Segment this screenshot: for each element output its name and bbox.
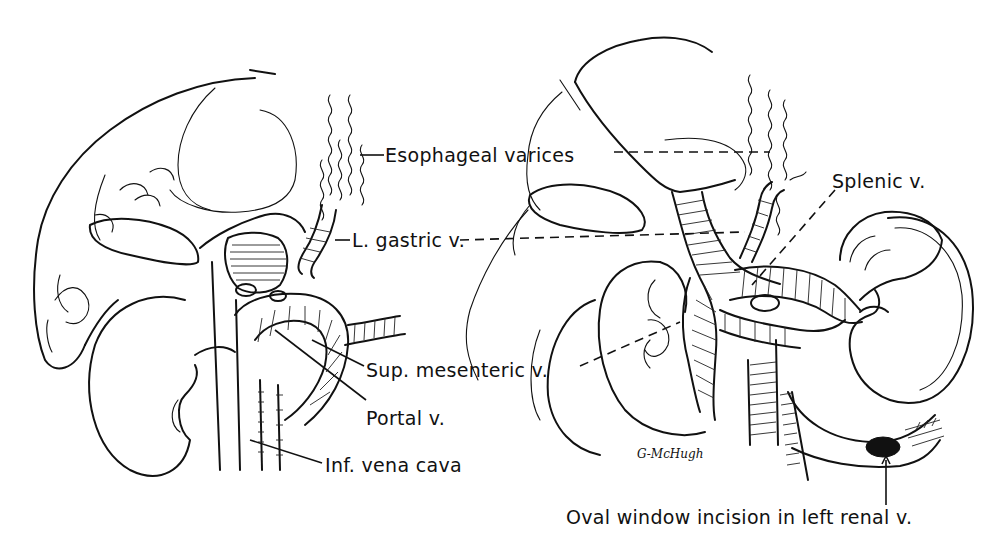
right-panel bbox=[460, 38, 973, 455]
anatomical-illustration: Esophageal varices L. gastric v. Splenic… bbox=[0, 0, 997, 539]
inset-oval-window bbox=[780, 392, 944, 505]
liver-right bbox=[466, 38, 745, 380]
oval-window-incision bbox=[866, 437, 900, 457]
label-portal-vein: Portal v. bbox=[366, 407, 445, 429]
stomach-left bbox=[90, 214, 305, 265]
dashed-leader-sup-mesenteric bbox=[580, 322, 680, 366]
label-oval-window-incision: Oval window incision in left renal v. bbox=[566, 506, 912, 528]
left-panel bbox=[34, 70, 405, 476]
label-sup-mesenteric-vein: Sup. mesenteric v. bbox=[366, 359, 548, 381]
stomach-right bbox=[529, 184, 645, 232]
label-splenic-vein: Splenic v. bbox=[832, 170, 926, 192]
artist-signature: G-McHugh bbox=[637, 447, 703, 461]
leader-sup-mesenteric bbox=[312, 340, 364, 366]
dashed-leader-splenic bbox=[752, 190, 835, 285]
portal-vein-right bbox=[672, 182, 862, 445]
liver-left bbox=[34, 70, 296, 368]
dashed-leader-l-gastric bbox=[460, 232, 745, 240]
label-inf-vena-cava: Inf. vena cava bbox=[325, 454, 462, 476]
kidney-left bbox=[89, 297, 235, 476]
label-left-gastric-vein: L. gastric v. bbox=[352, 229, 465, 251]
kidney-right bbox=[850, 217, 973, 403]
spleen-right bbox=[840, 212, 942, 300]
duodenum-right bbox=[531, 261, 705, 455]
label-esophageal-varices: Esophageal varices bbox=[385, 144, 574, 166]
